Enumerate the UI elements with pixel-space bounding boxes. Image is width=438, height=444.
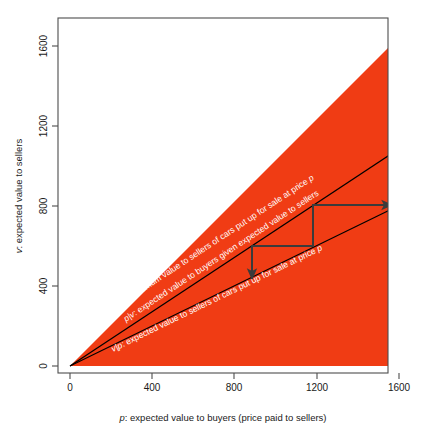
y-tick-label-1: 400 <box>38 277 49 294</box>
x-tick-label-2: 800 <box>226 382 243 393</box>
x-tick-label-0: 0 <box>67 382 73 393</box>
figure-container: Maximum value to sellers of cars put up … <box>0 0 438 444</box>
economics-plot: Maximum value to sellers of cars put up … <box>0 0 438 444</box>
x-axis-title: p: expected value to buyers (price paid … <box>118 412 326 423</box>
x-tick-label-4: 1600 <box>388 382 411 393</box>
x-tick-label-3: 1200 <box>306 382 329 393</box>
y-tick-label-4: 1600 <box>38 34 49 57</box>
y-tick-label-2: 800 <box>38 197 49 214</box>
x-axis-ticks-group: 0 400 800 1200 1600 <box>67 373 410 393</box>
x-tick-label-1: 400 <box>144 382 161 393</box>
y-tick-label-3: 1200 <box>38 114 49 137</box>
y-axis-title: v: expected value to sellers <box>13 138 24 253</box>
y-tick-label-0: 0 <box>38 363 49 369</box>
y-axis-ticks-group: 0 400 800 1200 1600 <box>38 34 58 368</box>
